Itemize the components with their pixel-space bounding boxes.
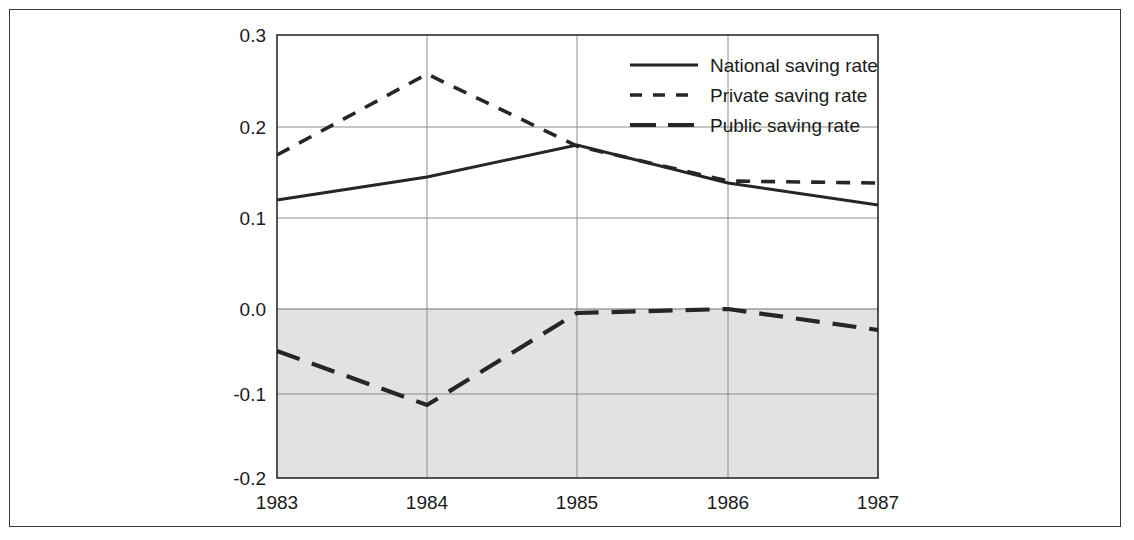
legend-label-private-saving-rate: Private saving rate [710, 85, 867, 106]
chart-legend: National saving rate Private saving rate… [630, 55, 878, 136]
x-tick-label: 1987 [857, 492, 899, 513]
y-tick-label: -0.2 [233, 468, 266, 489]
figure-canvas: 0.3 0.2 0.1 0.0 -0.1 -0.2 1983 1984 1985… [0, 0, 1134, 540]
x-tick-label: 1984 [406, 492, 449, 513]
legend-label-public-saving-rate: Public saving rate [710, 115, 860, 136]
legend-label-national-saving-rate: National saving rate [710, 55, 878, 76]
y-tick-label: 0.1 [240, 208, 266, 229]
saving-rate-line-chart: 0.3 0.2 0.1 0.0 -0.1 -0.2 1983 1984 1985… [0, 0, 1134, 540]
y-tick-label: 0.2 [240, 117, 266, 138]
y-tick-label: 0.3 [240, 25, 266, 46]
x-axis-tick-labels: 1983 1984 1985 1986 1987 [256, 492, 899, 513]
x-tick-label: 1986 [707, 492, 749, 513]
y-axis-tick-labels: 0.3 0.2 0.1 0.0 -0.1 -0.2 [233, 25, 266, 489]
y-tick-label: 0.0 [240, 299, 266, 320]
y-tick-label: -0.1 [233, 384, 266, 405]
x-tick-label: 1985 [556, 492, 598, 513]
x-tick-label: 1983 [256, 492, 298, 513]
